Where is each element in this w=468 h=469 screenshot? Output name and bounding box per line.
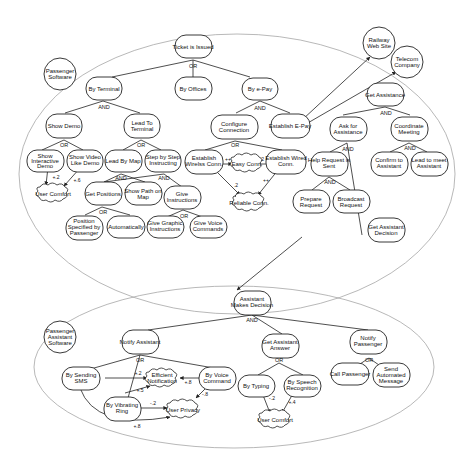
goal-assistant-makes-decision[interactable]: Assistant Makes Decision AND: [231, 291, 273, 323]
svg-text:SMS: SMS: [74, 378, 87, 384]
goal-by-vibrating-ring[interactable]: By Vibrating Ring: [104, 397, 141, 421]
actor-telecom-company[interactable]: Telecom Company: [391, 46, 423, 78]
goal-show-path-on-map[interactable]: Show Path on Map: [124, 182, 162, 205]
svg-text:Passenger: Passenger: [354, 341, 383, 347]
assistant-software-boundary: [34, 286, 434, 448]
contrib-label: -.2: [150, 400, 156, 406]
svg-text:Instructions: Instructions: [150, 226, 181, 232]
goal-coordinate-meeting[interactable]: Coordinate Meeting AND: [391, 117, 428, 151]
svg-text:User Comfort: User Comfort: [257, 417, 293, 423]
softgoal-user-privacy[interactable]: User Privacy: [166, 399, 200, 418]
softgoal-user-comfort-top[interactable]: User Comfort: [35, 183, 71, 202]
svg-text:Instructions: Instructions: [167, 197, 198, 203]
goal-position-specified[interactable]: Position Specified by Passenger: [66, 216, 103, 240]
goal-show-demo[interactable]: Show Demo OR: [46, 114, 82, 148]
goal-give-graphic-instructions[interactable]: Give Graphic Instructions: [147, 216, 184, 238]
or-label: OR: [365, 357, 373, 363]
goal-notify-passenger[interactable]: Notify Passenger OR: [350, 330, 387, 363]
goal-establish-epay[interactable]: Establish E-Pay: [269, 114, 311, 138]
softgoal-efficient-notification[interactable]: Efficient Notification: [145, 368, 177, 387]
goal-prepare-request[interactable]: Prepare Request: [293, 190, 330, 213]
goal-automatically[interactable]: Automatically: [107, 216, 145, 238]
svg-text:Ring: Ring: [116, 408, 128, 414]
goal-ask-for-assistance[interactable]: Ask for Assistance AND: [330, 117, 367, 152]
and-label: AND: [98, 104, 110, 110]
svg-text:Wirelss Conn.: Wirelss Conn.: [185, 161, 223, 167]
goal-by-sending-sms[interactable]: By Sending SMS: [62, 367, 100, 390]
goal-model-diagram: +.2 +.6 ++ .2 .2 ++ +.2 +.5 +.8 -.2 -.8 …: [0, 0, 468, 469]
svg-text:Lead By Map: Lead By Map: [105, 158, 141, 164]
svg-text:Demo: Demo: [37, 163, 54, 169]
svg-text:Conn.: Conn.: [278, 161, 294, 167]
goal-lead-by-map[interactable]: Lead By Map AND: [105, 150, 142, 181]
and-label: AND: [380, 110, 392, 116]
goal-get-assistant-answer[interactable]: Get Assistant Answer OR: [262, 334, 299, 363]
goal-lead-to-terminal[interactable]: Lead To Terminal OR: [124, 114, 160, 148]
contrib-label: +.6: [73, 177, 80, 183]
or-label: OR: [231, 142, 239, 148]
svg-text:Request: Request: [300, 202, 323, 208]
svg-text:User Comfort: User Comfort: [35, 191, 71, 197]
goal-get-assistant-decision[interactable]: Get Assistant Decision: [368, 218, 405, 242]
svg-text:By Typing: By Typing: [243, 383, 269, 389]
goal-confirm-to-assistant[interactable]: Confirm to Assistant: [371, 152, 408, 176]
svg-text:Web Site: Web Site: [367, 43, 392, 49]
softgoal-reliable-conn[interactable]: Reliable Conn.: [229, 192, 269, 211]
and-label: AND: [246, 317, 258, 323]
and-label: AND: [115, 175, 127, 181]
svg-text:Recognition: Recognition: [286, 385, 318, 391]
goal-get-positions[interactable]: Get Positions OR: [85, 182, 122, 215]
svg-text:Software: Software: [48, 340, 72, 346]
svg-text:Map: Map: [137, 194, 149, 200]
contrib-label: +.2: [52, 174, 59, 180]
svg-text:Assistant: Assistant: [377, 163, 402, 169]
actor-railway-web-site[interactable]: Railway Web Site: [363, 27, 395, 59]
svg-text:Commands: Commands: [193, 226, 224, 232]
contrib-label: -.8: [202, 391, 208, 397]
or-label: OR: [189, 63, 197, 69]
goal-by-typing[interactable]: By Typing: [238, 375, 275, 397]
contrib-label: .2: [234, 182, 238, 188]
goal-give-voice-commands[interactable]: Give Voice Commands: [190, 216, 227, 238]
svg-text:Makes Decision: Makes Decision: [231, 302, 273, 308]
svg-text:Request: Request: [340, 202, 363, 208]
goal-establish-wired-conn[interactable]: Establish Wired Conn.: [265, 150, 307, 174]
goal-show-video-like-demo[interactable]: Show Video Like Demo: [67, 150, 103, 172]
svg-text:Show Demo: Show Demo: [48, 123, 81, 129]
and-label: AND: [404, 145, 416, 151]
svg-text:Passenger: Passenger: [70, 230, 99, 236]
softgoal-easy-conn[interactable]: Easy Conn.: [230, 153, 263, 172]
goal-broadcast-request[interactable]: Broadcast Request: [333, 190, 370, 213]
goal-show-interactive-demo[interactable]: Show Interactive Demo: [27, 150, 64, 172]
contrib-label: ++: [225, 156, 231, 162]
goal-notify-assistant[interactable]: Notify Assistant OR: [119, 330, 160, 363]
goal-get-assistance[interactable]: Get Assistance AND: [365, 83, 406, 116]
goal-step-by-step-instructing[interactable]: Step by Step Instructing AND: [145, 150, 181, 181]
svg-text:Message: Message: [379, 378, 404, 384]
svg-text:Ticket is Issued: Ticket is Issued: [172, 44, 213, 50]
or-label: OR: [60, 142, 68, 148]
svg-text:Command: Command: [203, 378, 231, 384]
goal-lead-to-meet-assistant[interactable]: Lead to meet Assistant: [411, 152, 448, 176]
goal-call-passenger[interactable]: Call Passenger: [330, 363, 371, 385]
svg-text:Terminal: Terminal: [131, 126, 154, 132]
svg-text:Assistant: Assistant: [417, 163, 442, 169]
goal-help-request-sent[interactable]: Help Request is Sent AND: [308, 152, 350, 185]
goal-by-speech-recognition[interactable]: By Speech Recognition: [284, 375, 321, 397]
actor-passenger-assistant-software[interactable]: Passenger Assistant Software: [44, 321, 76, 353]
svg-text:Sent: Sent: [323, 163, 336, 169]
svg-text:Notification: Notification: [147, 378, 177, 384]
softgoal-user-comfort-bottom[interactable]: User Comfort: [257, 409, 293, 428]
goal-by-offices[interactable]: By Offices: [175, 77, 212, 100]
goal-by-voice-command[interactable]: By Voice Command: [199, 367, 236, 390]
goal-send-automated-message[interactable]: Send Automated Message: [373, 363, 410, 387]
svg-text:Easy Conn.: Easy Conn.: [231, 161, 262, 167]
actor-passenger-software[interactable]: Passenger Software: [44, 58, 76, 90]
goal-establish-wireless-conn[interactable]: Establish Wirelss Conn.: [185, 150, 223, 174]
svg-text:Decision: Decision: [374, 230, 397, 236]
or-label: OR: [180, 213, 188, 219]
goal-configure-connection[interactable]: Configure Connection OR: [211, 115, 258, 148]
contrib-label: +.2: [134, 370, 141, 376]
svg-text:By e-Pay: By e-Pay: [248, 86, 272, 92]
and-label: AND: [158, 175, 170, 181]
